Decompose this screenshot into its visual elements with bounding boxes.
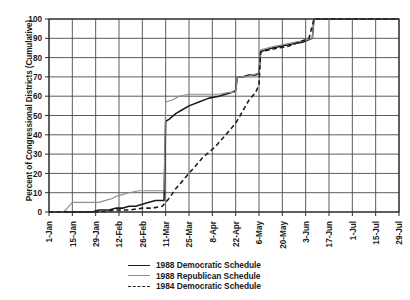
y-tick-label: 30 — [33, 150, 43, 159]
x-tick-label: 3-Jun — [302, 221, 311, 243]
legend-label-dem88: 1988 Democratic Schedule — [156, 260, 261, 270]
y-tick-label: 70 — [33, 73, 43, 82]
y-tick-label: 40 — [33, 131, 43, 140]
legend-line-rep88-icon — [128, 271, 150, 280]
x-axis-ticks — [49, 212, 399, 216]
x-tick-label: 12-Feb — [115, 221, 124, 247]
x-tick-label: 17-Jun — [325, 221, 334, 247]
x-tick-label: 20-May — [279, 221, 288, 249]
y-tick-label: 90 — [33, 34, 43, 43]
legend-item-dem84: 1984 Democratic Schedule — [128, 281, 261, 292]
chart-container: Percent of Congressional Districts (Cumu… — [0, 0, 410, 300]
y-axis-title: Percent of Congressional Districts (Cumu… — [25, 1, 34, 221]
x-tick-label: 29-Jan — [92, 221, 101, 247]
x-tick-label: 22-Apr — [232, 220, 241, 247]
gridlines — [49, 19, 399, 212]
legend-line-dem84-icon — [128, 282, 150, 291]
x-tick-label: 8-Apr — [209, 220, 218, 242]
x-tick-label: 15-Jan — [69, 221, 78, 247]
legend-line-dem88-icon — [128, 261, 150, 270]
chart-legend: 1988 Democratic Schedule 1988 Republican… — [128, 260, 261, 292]
x-axis-tick-labels: 1-Jan15-Jan29-Jan12-Feb26-Feb11-Mar25-Ma… — [45, 220, 404, 249]
x-tick-label: 29-Jul — [395, 221, 404, 245]
y-tick-label: 10 — [33, 189, 43, 198]
x-tick-label: 25-Mar — [185, 220, 194, 247]
x-tick-label: 26-Feb — [139, 221, 148, 247]
y-tick-label: 50 — [33, 112, 43, 121]
legend-item-dem88: 1988 Democratic Schedule — [128, 260, 261, 271]
legend-label-rep88: 1988 Republican Schedule — [156, 271, 260, 281]
y-tick-label: 80 — [33, 54, 43, 63]
x-tick-label: 15-Jul — [372, 221, 381, 245]
x-tick-label: 1-Jul — [349, 221, 358, 240]
x-tick-label: 1-Jan — [45, 221, 54, 242]
y-tick-label: 20 — [33, 170, 43, 179]
legend-label-dem84: 1984 Democratic Schedule — [156, 281, 261, 291]
legend-item-rep88: 1988 Republican Schedule — [128, 271, 261, 282]
y-tick-label: 0 — [37, 208, 42, 217]
y-tick-label: 60 — [33, 92, 43, 101]
x-tick-label: 11-Mar — [162, 220, 171, 247]
x-tick-label: 6-May — [255, 221, 264, 245]
chart-plot-area: 0102030405060708090100 1-Jan15-Jan29-Jan… — [0, 0, 410, 260]
